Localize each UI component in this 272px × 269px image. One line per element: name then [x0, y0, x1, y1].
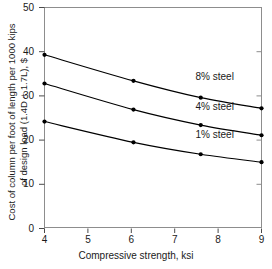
x-axis-title: Compressive strength, ksi	[0, 250, 272, 261]
y-axis-title-line1: Cost of column per foot of length per 10…	[6, 7, 18, 237]
x-tick-label: 7	[165, 235, 185, 245]
series-label-4-percent-steel: 4% steel	[196, 101, 234, 112]
x-tick-label: 8	[208, 235, 228, 245]
x-tick-label: 6	[121, 235, 141, 245]
series-label-1-percent-steel: 1% steel	[196, 129, 234, 140]
figure-caption	[2, 262, 122, 269]
series-label-8-percent-steel: 8% steel	[196, 71, 234, 82]
y-axis-title-line2: of design load (1.4D + 1.7L), $	[18, 7, 30, 237]
figure-container: 50 40 30 20 10 0 4 5 6 7 8 9 Cost of col…	[0, 0, 272, 269]
x-tick-label: 9	[252, 235, 272, 245]
y-axis-title: Cost of column per foot of length per 10…	[6, 7, 30, 237]
x-tick-label: 5	[78, 235, 98, 245]
x-tick-label: 4	[35, 235, 55, 245]
